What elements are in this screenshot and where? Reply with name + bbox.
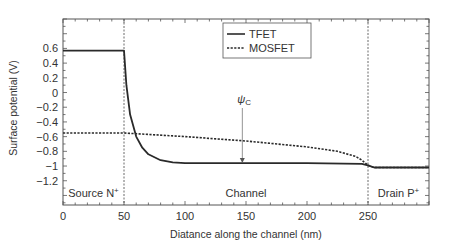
x-tick-label: 100	[176, 210, 194, 222]
series-line-tfet	[63, 51, 429, 168]
surface-potential-chart: 0501001502002500.60.40.20−0.2−0.4−0.6−0.…	[0, 0, 452, 249]
y-tick-label: −0.8	[36, 145, 58, 157]
x-tick-label: 250	[359, 210, 377, 222]
y-axis-title: Surface potential (V)	[7, 60, 19, 156]
channel-region-label: Channel	[226, 187, 267, 199]
y-tick-label: 0.2	[43, 72, 58, 84]
plot-area: 0501001502002500.60.40.20−0.2−0.4−0.6−0.…	[7, 19, 429, 240]
y-tick-label: −1	[45, 160, 58, 172]
x-tick-label: 200	[298, 210, 316, 222]
y-tick-label: 0.4	[43, 57, 58, 69]
y-tick-label: −0.4	[36, 116, 58, 128]
x-tick-label: 0	[60, 210, 66, 222]
x-axis-title: Diatance along the channel (nm)	[170, 228, 322, 240]
psi-c-label: ψC	[237, 93, 251, 107]
legend-label-tfet: TFET	[249, 28, 277, 40]
x-tick-label: 50	[118, 210, 130, 222]
y-tick-label: −0.2	[36, 101, 58, 113]
source-region-label: Source N+	[68, 186, 119, 199]
y-tick-label: −0.6	[36, 131, 58, 143]
y-tick-label: −1.2	[36, 175, 58, 187]
drain-region-label: Drain P+	[378, 186, 420, 199]
legend-label-mosfet: MOSFET	[249, 42, 295, 54]
y-tick-label: 0.6	[43, 42, 58, 54]
x-tick-label: 150	[237, 210, 255, 222]
y-tick-label: 0	[52, 87, 58, 99]
